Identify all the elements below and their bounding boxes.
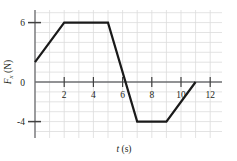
x-axis-units: (s) [121,144,131,155]
y-tick-label-6: 6 [20,18,25,28]
y-axis-units: (N) [3,60,14,73]
svg-text:Fx (N): Fx (N) [3,60,14,85]
y-tick-label-0: 0 [20,78,25,88]
x-tick-label-8: 8 [149,90,154,100]
x-tick-label-6: 6 [120,90,125,100]
x-tick-label-12: 12 [205,90,215,100]
y-axis-title: Fx (N) [3,60,14,85]
plot-area: 6 0 -4 2 4 6 8 10 12 t (s) Fx (N) [0,0,237,161]
x-axis-title: t (s) [116,144,131,155]
y-tick-label-neg4: -4 [17,117,25,127]
force-time-graph-figure: 6 0 -4 2 4 6 8 10 12 t (s) Fx (N) [0,0,237,161]
svg-text:t (s): t (s) [116,144,131,155]
x-tick-label-2: 2 [62,90,67,100]
x-tick-label-4: 4 [91,90,96,100]
